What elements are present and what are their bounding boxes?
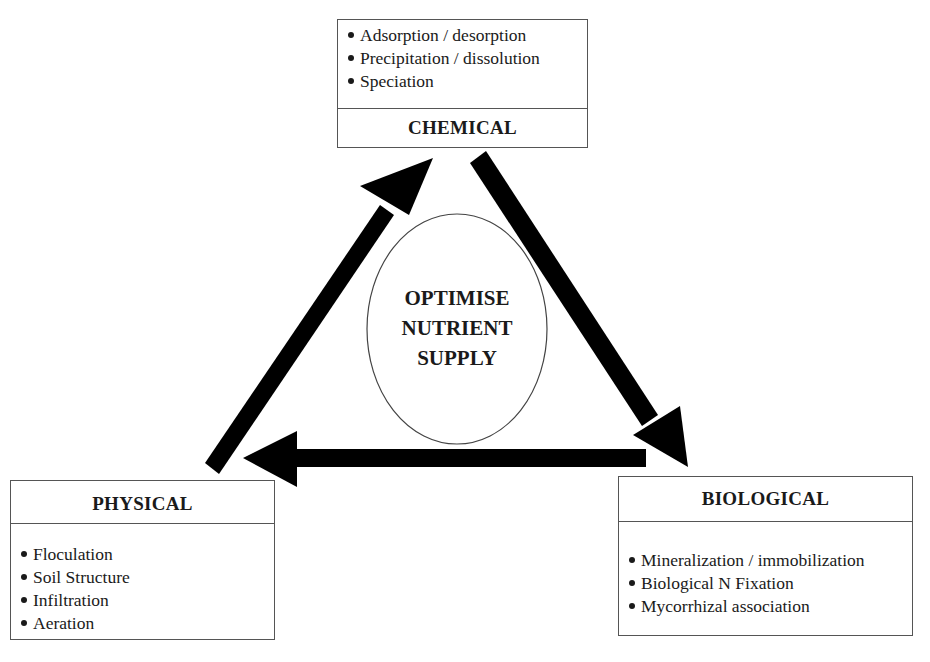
bullet-icon [21, 620, 27, 626]
bullet-icon [348, 32, 354, 38]
physical-box: PHYSICAL Floculation Soil Structure Infi… [10, 480, 275, 640]
physical-title: PHYSICAL [11, 481, 274, 523]
bullet-icon [21, 551, 27, 557]
list-item: Mineralization / immobilization [629, 549, 912, 572]
divider [338, 108, 587, 109]
bullet-icon [629, 557, 635, 563]
chemical-box: Adsorption / desorption Precipitation / … [337, 19, 588, 148]
list-item: Speciation [348, 70, 587, 93]
list-item: Mycorrhizal association [629, 595, 912, 618]
center-label: OPTIMISE NUTRIENT SUPPLY [367, 283, 547, 373]
biological-title: BIOLOGICAL [619, 477, 912, 521]
list-item: Adsorption / desorption [348, 24, 587, 47]
chemical-list: Adsorption / desorption Precipitation / … [338, 20, 587, 108]
list-item: Soil Structure [21, 566, 274, 589]
bullet-icon [348, 55, 354, 61]
bullet-icon [348, 78, 354, 84]
list-item: Floculation [21, 543, 274, 566]
list-item: Aeration [21, 612, 274, 635]
physical-list: Floculation Soil Structure Infiltration … [11, 524, 274, 635]
bullet-icon [629, 603, 635, 609]
bullet-icon [629, 580, 635, 586]
center-line-2: NUTRIENT [367, 313, 547, 343]
list-item: Infiltration [21, 589, 274, 612]
center-line-1: OPTIMISE [367, 283, 547, 313]
list-item: Precipitation / dissolution [348, 47, 587, 70]
biological-box: BIOLOGICAL Mineralization / immobilizati… [618, 476, 913, 636]
center-line-3: SUPPLY [367, 343, 547, 373]
biological-list: Mineralization / immobilization Biologic… [619, 522, 912, 618]
bullet-icon [21, 574, 27, 580]
list-item: Biological N Fixation [629, 572, 912, 595]
bullet-icon [21, 597, 27, 603]
chemical-title: CHEMICAL [338, 117, 587, 139]
